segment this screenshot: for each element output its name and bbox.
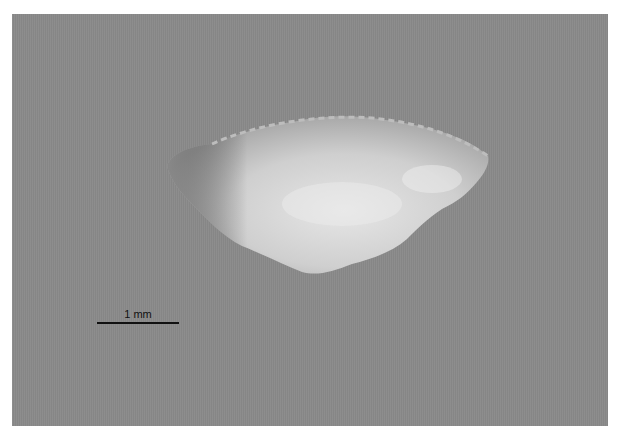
scale-bar-line [97,322,179,324]
specimen-photo: 1 mm [12,14,608,426]
specimen-shell [12,14,608,426]
scale-bar: 1 mm [97,308,179,324]
scale-bar-label: 1 mm [97,308,179,320]
